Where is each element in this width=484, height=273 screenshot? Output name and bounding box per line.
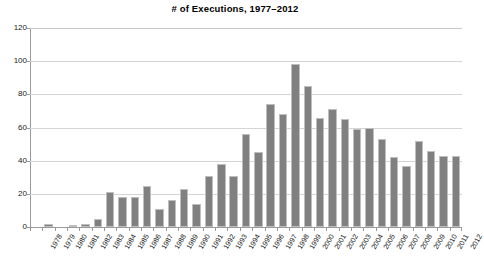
x-axis-tick-label: 1982 (99, 233, 114, 251)
bar (242, 134, 250, 227)
y-axis-tick-label: 0 (1, 223, 27, 231)
bar (390, 157, 398, 227)
x-axis-tick-mark (55, 228, 56, 231)
bar (44, 224, 52, 227)
x-axis-tick-label: 1993 (234, 233, 249, 251)
bar (155, 209, 163, 227)
x-axis-tick-mark (203, 228, 204, 231)
bar (205, 176, 213, 227)
x-axis-tick-label: 1997 (284, 233, 299, 251)
bar (427, 151, 435, 227)
x-axis-tick-mark (190, 228, 191, 231)
x-axis-tick-mark (129, 228, 130, 231)
x-axis-tick-mark (166, 228, 167, 231)
x-axis-tick-label: 1984 (123, 233, 138, 251)
x-axis-tick-label: 1999 (308, 233, 323, 251)
chart-title: # of Executions, 1977–2012 (0, 3, 470, 14)
x-axis-tick-mark (450, 228, 451, 231)
bar (94, 219, 102, 227)
x-axis-tick-mark (252, 228, 253, 231)
bar (452, 156, 460, 227)
x-axis-tick-mark (116, 228, 117, 231)
x-axis-tick-label: 1981 (86, 233, 101, 251)
bar (118, 197, 126, 227)
bar (168, 200, 176, 227)
x-axis-tick-label: 1978 (49, 233, 64, 251)
x-axis-tick-mark (30, 228, 31, 231)
x-axis-tick-label: 2012 (469, 233, 484, 251)
x-axis-tick-mark (215, 228, 216, 231)
bar (69, 225, 77, 227)
y-axis-tick-label: 120 (1, 24, 27, 32)
bar (402, 166, 410, 227)
bar (81, 224, 89, 227)
x-axis-tick-label: 1985 (136, 233, 151, 251)
x-axis-tick-mark (67, 228, 68, 231)
x-axis-tick-mark (227, 228, 228, 231)
bar (316, 118, 324, 227)
x-axis-tick-label: 1987 (160, 233, 175, 251)
x-axis-tick-mark (42, 228, 43, 231)
x-axis-tick-mark (339, 228, 340, 231)
bar (415, 141, 423, 227)
plot-area (30, 28, 462, 227)
x-axis-tick-mark (265, 228, 266, 231)
x-axis-tick-mark (400, 228, 401, 231)
x-axis-tick-label: 1990 (197, 233, 212, 251)
y-axis-tick-label: 100 (1, 57, 27, 65)
x-axis-tick-mark (92, 228, 93, 231)
x-axis-tick-mark (240, 228, 241, 231)
x-axis-tick-mark (104, 228, 105, 231)
x-axis-tick-mark (326, 228, 327, 231)
x-axis-tick-label: 1994 (247, 233, 262, 251)
x-axis-tick-mark (79, 228, 80, 231)
x-axis-tick-label: 2006 (395, 233, 410, 251)
y-axis: 020406080100120 (0, 0, 27, 273)
x-axis-tick-label: 2002 (345, 233, 360, 251)
y-axis-tick-label: 20 (1, 190, 27, 198)
x-axis-labels: 1978197919801981198219831984198519861987… (30, 228, 462, 273)
bar (106, 192, 114, 227)
bar-series (30, 28, 462, 227)
bar (291, 64, 299, 227)
bar (439, 156, 447, 227)
bar (266, 104, 274, 227)
x-axis-tick-mark (289, 228, 290, 231)
x-axis-tick-label: 1991 (210, 233, 225, 251)
bar (378, 139, 386, 227)
x-axis-tick-label: 2005 (382, 233, 397, 251)
x-axis-tick-mark (178, 228, 179, 231)
x-axis-tick-mark (302, 228, 303, 231)
bar (217, 164, 225, 227)
x-axis-tick-label: 2003 (358, 233, 373, 251)
x-axis-tick-mark (461, 228, 462, 231)
bar (229, 176, 237, 227)
bar (180, 189, 188, 227)
x-axis-tick-label: 1988 (173, 233, 188, 251)
x-axis-tick-label: 1996 (271, 233, 286, 251)
y-axis-tick-label: 40 (1, 157, 27, 165)
y-axis-tick-label: 60 (1, 124, 27, 132)
x-axis-tick-mark (363, 228, 364, 231)
bar (131, 197, 139, 227)
x-axis-tick-mark (388, 228, 389, 231)
bar (365, 128, 373, 228)
bar (304, 86, 312, 227)
bar (328, 109, 336, 227)
x-axis-tick-label: 2008 (419, 233, 434, 251)
x-axis-tick-label: 1979 (62, 233, 77, 251)
x-axis-tick-mark (153, 228, 154, 231)
y-axis-tick-label: 80 (1, 90, 27, 98)
x-axis-tick-mark (425, 228, 426, 231)
x-axis-tick-label: 2009 (432, 233, 447, 251)
x-axis-tick-mark (277, 228, 278, 231)
x-axis-tick-mark (141, 228, 142, 231)
x-axis-tick-label: 2000 (321, 233, 336, 251)
bar (143, 186, 151, 227)
x-axis-tick-mark (376, 228, 377, 231)
bar (353, 129, 361, 227)
x-axis-tick-mark (413, 228, 414, 231)
x-axis-tick-mark (314, 228, 315, 231)
bar (341, 119, 349, 227)
